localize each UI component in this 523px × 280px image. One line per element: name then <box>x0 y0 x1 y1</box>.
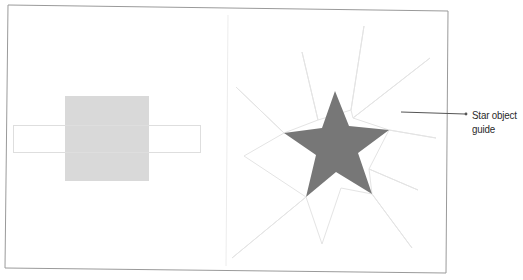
callout-label-line2: guide <box>472 122 523 136</box>
callout-label-line1: Star object <box>472 108 523 122</box>
diagram-canvas <box>0 0 523 280</box>
callout-label: Star object guide <box>472 108 523 136</box>
square-shape <box>65 96 149 181</box>
callout-line-end <box>465 113 468 116</box>
